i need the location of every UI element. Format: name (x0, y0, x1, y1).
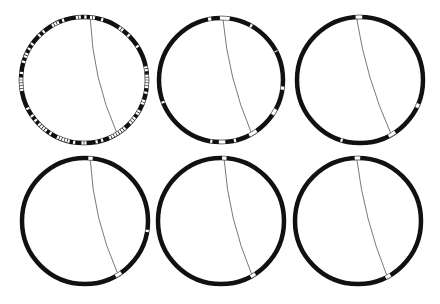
ring-gap-segment (137, 46, 138, 48)
ring-gap-segment (29, 48, 30, 50)
ring-gap-segment (208, 19, 211, 20)
ring-gap-segment (50, 133, 52, 134)
circle-map-4 (22, 156, 149, 284)
link-chord (224, 160, 251, 274)
ring-gap-segment (57, 22, 59, 23)
ring-gap-segment (57, 137, 59, 138)
ring-gap-segment (142, 102, 143, 104)
ring-gap-segment (26, 53, 27, 55)
ring-gap-segment (27, 108, 28, 110)
ring-gap-segment (68, 141, 70, 142)
link-chord (90, 160, 117, 273)
figure-canvas (0, 0, 440, 304)
ring-gap-segment (62, 139, 64, 140)
ring-gap-segment (109, 137, 111, 138)
link-chord (357, 19, 391, 133)
ring-gap-segment (112, 136, 114, 137)
link-chord (90, 19, 116, 131)
ring-gap-segment (62, 20, 64, 21)
ring-gap-segment (121, 29, 123, 30)
ring-gap-segment (417, 104, 419, 108)
ring-gap-segment (65, 140, 67, 141)
ring-gap-segment (250, 25, 252, 26)
ring-gap-segment (138, 110, 139, 112)
ring-gap-segment (39, 124, 41, 126)
circle-map-3 (297, 15, 423, 143)
link-chord (223, 20, 251, 132)
ring-track (159, 18, 283, 142)
ring-gap-segment (124, 128, 126, 129)
ring-gap-segment (54, 23, 56, 24)
ring-gap-segment (52, 25, 54, 26)
ring-gap-segment (137, 113, 138, 115)
ring-gap-segment (121, 129, 123, 130)
circle-map-2 (159, 16, 285, 144)
ring-gap-segment (114, 134, 116, 135)
ring-gap-segment (119, 28, 121, 29)
circle-map-6 (295, 156, 421, 284)
ring-gap-segment (117, 133, 119, 134)
ring-gap-segment (276, 51, 277, 52)
link-chord (357, 160, 387, 275)
ring-gap-segment (163, 101, 164, 103)
ring-gap-segment (43, 128, 45, 129)
ring-gap-segment (39, 35, 41, 37)
ring-gap-segment (32, 43, 33, 45)
ring-gap-segment (35, 120, 36, 122)
ring-gap-segment (128, 35, 130, 37)
ring-gap-segment (23, 61, 24, 63)
ring-gap-segment (32, 115, 33, 117)
circle-map-5 (158, 156, 284, 284)
circle-map-1 (19, 15, 149, 145)
ring-gap-segment (132, 120, 133, 122)
ring-gap-segment (220, 18, 230, 19)
ring-gap-segment (25, 56, 26, 58)
ring-gap-segment (249, 131, 256, 135)
ring-track (158, 158, 284, 284)
ring-gap-segment (130, 122, 131, 124)
ring-gap-segment (341, 140, 343, 141)
ring-gap-segment (45, 129, 47, 130)
ring-gap-segment (43, 31, 45, 32)
ring-gap-segment (101, 140, 103, 141)
circular-genome-maps (0, 0, 440, 304)
ring-track (22, 158, 148, 284)
ring-track (295, 158, 421, 284)
ring-gap-segment (143, 100, 144, 102)
ring-gap-segment (101, 19, 103, 20)
ring-gap-segment (60, 138, 62, 139)
ring-gap-segment (133, 117, 134, 119)
ring-gap-segment (119, 131, 121, 132)
ring-gap-segment (41, 126, 43, 127)
